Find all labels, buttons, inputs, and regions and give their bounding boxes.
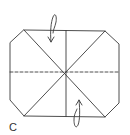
step-label: C bbox=[9, 121, 17, 133]
diagonal-crease-2 bbox=[24, 31, 105, 116]
origami-diagram bbox=[0, 0, 130, 135]
